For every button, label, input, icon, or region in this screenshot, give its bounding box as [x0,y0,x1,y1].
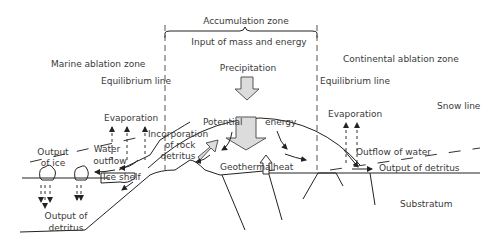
precipitation-label: Precipitation [220,63,276,73]
continental-ablation-label: Continental ablation zone [343,54,459,64]
incorporation-label: Incorporation [148,129,208,139]
water-outflow-label: Water [94,144,121,154]
potential-label: Potential [203,117,242,127]
evaporation-right-label: Evaporation [328,109,382,119]
substratum-label: Substratum [400,199,453,209]
energy-flow-arrow [277,131,287,149]
glacier-diagram: Accumulation zone Input of mass and ener… [0,0,495,246]
input-label: Input of mass and energy [191,37,307,47]
output-of-detritus-left-label: detritus [49,223,84,233]
equilibrium-line-right-label: Equilibrium line [320,76,391,86]
output-of-detritus-right-label: Output of detritus [379,163,460,173]
evaporation-left-label: Evaporation [104,113,158,123]
ice-shelf-label: Ice shelf [103,172,141,182]
heat-label: heat [273,162,294,172]
water-outflow-label: outflow [93,156,126,166]
fault-line [268,171,282,220]
bump [303,173,343,199]
output-of-ice-label: Output [37,147,69,157]
accumulation-zone-label: Accumulation zone [203,16,289,26]
precipitation-arrow [235,77,259,100]
snow-line-label: Snow line [437,101,481,111]
output-of-detritus-left-label: Output of [45,211,89,221]
ice-shelf-arrow [122,182,133,190]
incorporation-label: of rock [165,140,196,150]
incorporation-label: detritus [161,151,196,161]
marine-ablation-label: Marine ablation zone [51,59,146,69]
fault-line [370,173,375,205]
fault-line [222,175,245,230]
geothermal-label: Geothermal [220,162,273,172]
output-of-ice-label: of ice [41,158,66,168]
energy-label: energy [265,117,297,127]
energy-flow-arrow [285,154,306,160]
outflow-of-water-label: Outflow of water [356,147,431,157]
equilibrium-line-left-label: Equilibrium line [101,76,172,86]
